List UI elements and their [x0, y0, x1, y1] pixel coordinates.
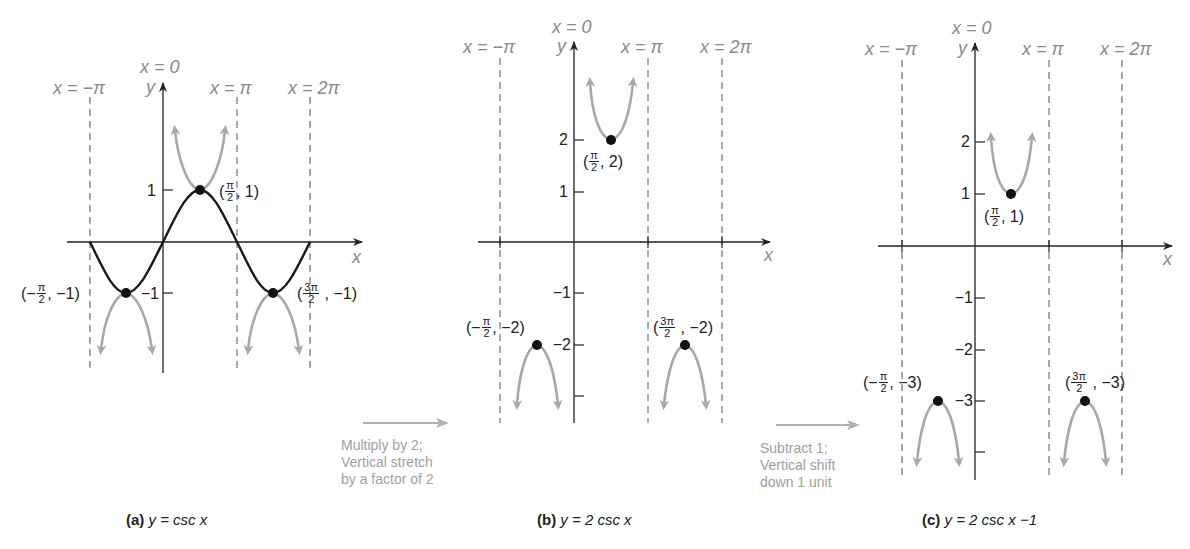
y-tick-neg1: −1	[541, 285, 571, 301]
y-tick-2: 2	[538, 132, 568, 148]
y-tick-neg3: −3	[943, 393, 973, 409]
point-label-pi-over-2: (π2, 1)	[219, 180, 259, 203]
figure-graphics	[0, 0, 1190, 549]
y-tick-1: 1	[126, 183, 156, 199]
asymptote-label-pi: x = π	[621, 38, 663, 56]
y-tick-neg1: −1	[129, 286, 159, 302]
point-label-3pi-over-2: (3π2 , −3)	[1065, 371, 1125, 394]
asymptote-lines	[500, 58, 722, 423]
y-tick-neg2: −2	[943, 342, 973, 358]
panel-a-graph	[67, 83, 362, 373]
transform-note-2: Subtract 1; Vertical shift down 1 unit	[760, 440, 835, 491]
point-label-neg-pi-over-2: (−π2, −3)	[863, 371, 922, 394]
asymptote-label-2pi: x = 2π	[288, 79, 340, 97]
point-label-3pi-over-2: (3π2 , −1)	[297, 282, 357, 305]
y-tick-neg1: −1	[943, 290, 973, 306]
x-axis-label: x	[352, 248, 361, 266]
csc-branches	[517, 82, 706, 405]
asymptote-label-neg-pi: x = −π	[53, 79, 105, 97]
point-label-pi-over-2: (π2, 2)	[583, 150, 623, 173]
y-axis-label: y	[958, 39, 967, 57]
asymptote-label-zero: x = 0	[140, 58, 180, 76]
y-tick-neg2: −2	[541, 337, 571, 353]
transform-note-1: Multiply by 2; Vertical stretch by a fac…	[341, 437, 434, 488]
asymptote-label-2pi: x = 2π	[1100, 40, 1152, 58]
point-label-neg-pi-over-2: (−π2, −1)	[21, 282, 80, 305]
point-label-pi-over-2: (π2, 1)	[984, 205, 1024, 228]
panel-b-graph	[363, 42, 770, 428]
caption-a: (a) y = csc x	[126, 511, 207, 528]
panel-c-graph	[776, 43, 1172, 480]
asymptote-label-pi: x = π	[1022, 40, 1064, 58]
point-label-neg-pi-over-2: (−π2, −2)	[466, 316, 525, 339]
asymptote-label-neg-pi: x = −π	[463, 38, 515, 56]
y-axis-label: y	[557, 37, 566, 55]
asymptote-lines	[90, 97, 310, 373]
asymptote-label-pi: x = π	[210, 79, 252, 97]
asymptote-label-zero: x = 0	[552, 18, 592, 36]
y-tick-1: 1	[538, 184, 568, 200]
asymptote-label-zero: x = 0	[952, 19, 992, 37]
caption-b: (b) y = 2 csc x	[537, 511, 632, 528]
x-axis-label: x	[1163, 250, 1172, 268]
y-tick-2: 2	[940, 134, 970, 150]
x-axis-label: x	[764, 246, 773, 264]
asymptote-label-neg-pi: x = −π	[865, 40, 917, 58]
y-tick-1: 1	[940, 186, 970, 202]
y-axis-label: y	[146, 78, 155, 96]
csc-branches	[101, 130, 299, 350]
asymptote-lines	[902, 60, 1122, 480]
asymptote-label-2pi: x = 2π	[700, 38, 752, 56]
caption-c: (c) y = 2 csc x −1	[922, 511, 1037, 528]
point-label-3pi-over-2: (3π2 , −2)	[653, 316, 713, 339]
